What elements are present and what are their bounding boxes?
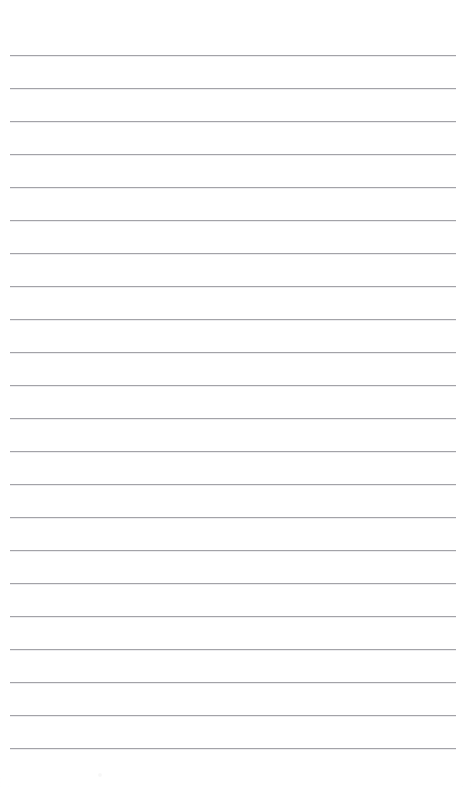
writing-line-area[interactable] [0, 155, 471, 187]
writing-line-area[interactable] [0, 551, 471, 583]
writing-line-area[interactable] [0, 386, 471, 418]
writing-line-area[interactable] [0, 617, 471, 649]
writing-line-area[interactable] [0, 320, 471, 352]
writing-line-area[interactable] [0, 452, 471, 484]
writing-line-area[interactable] [0, 584, 471, 616]
writing-line-area[interactable] [0, 89, 471, 121]
writing-line-area[interactable] [0, 485, 471, 517]
writing-line-area[interactable] [0, 221, 471, 253]
writing-line-area[interactable] [0, 56, 471, 88]
writing-line-area[interactable] [0, 188, 471, 220]
rule-line [10, 748, 456, 749]
writing-line-area[interactable] [0, 716, 471, 748]
writing-line-area[interactable] [0, 122, 471, 154]
writing-line-area[interactable] [0, 353, 471, 385]
writing-line-area[interactable] [0, 518, 471, 550]
writing-line-area[interactable] [0, 683, 471, 715]
notepad-page [0, 0, 471, 787]
writing-line-area[interactable] [0, 254, 471, 286]
writing-line-area[interactable] [0, 650, 471, 682]
writing-line-area[interactable] [0, 419, 471, 451]
writing-line-area[interactable] [0, 287, 471, 319]
